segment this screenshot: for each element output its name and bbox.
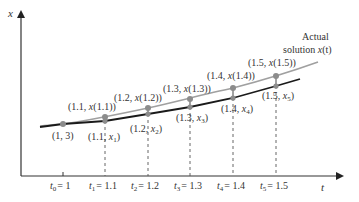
tick-label-t0: t0= 1 <box>50 180 70 193</box>
actual-point-2 <box>145 105 151 111</box>
svg-text:Actual: Actual <box>302 31 329 42</box>
euler-point-3 <box>187 104 192 109</box>
euler-point-1 <box>102 118 107 123</box>
actual-point-labels: (1.1, x(1.1)) (1.2, x(1.2)) (1.3, x(1.3)… <box>68 57 296 113</box>
euler-label-5: (1.5, x5) <box>262 90 294 103</box>
actual-label-5: (1.5, x(1.5)) <box>248 57 296 69</box>
svg-text:solution x(t): solution x(t) <box>283 44 332 56</box>
tick-label-t4: t4= 1.4 <box>217 180 245 193</box>
x-axis-label: t <box>321 181 325 193</box>
euler-point-4 <box>230 95 235 100</box>
actual-solution-label: Actual solution x(t) <box>283 31 332 56</box>
actual-label-3: (1.3, x(1.3)) <box>163 83 211 95</box>
initial-point <box>60 121 66 127</box>
euler-method-diagram: x t Actual solution x( <box>0 0 359 202</box>
euler-label-1: (1.1, x1) <box>88 131 120 144</box>
euler-point-5 <box>273 83 278 88</box>
euler-point-2 <box>145 111 150 116</box>
actual-label-2: (1.2, x(1.2)) <box>114 92 162 104</box>
actual-label-4: (1.4, x(1.4)) <box>207 70 255 82</box>
euler-label-4: (1.4, x4) <box>221 103 253 116</box>
tick-labels: t0= 1 t1= 1.1 t2= 1.2 t3= 1.3 t4= 1.4 t5… <box>50 180 288 193</box>
actual-label-1: (1.1, x(1.1)) <box>68 101 116 113</box>
initial-point-label: (1, 3) <box>52 130 74 142</box>
tick-label-t1: t1= 1.1 <box>89 180 117 193</box>
tick-label-t5: t5= 1.5 <box>260 180 288 193</box>
tick-label-t3: t3= 1.3 <box>174 180 202 193</box>
tick-label-t2: t2= 1.2 <box>131 180 159 193</box>
y-axis-label: x <box>7 7 13 19</box>
euler-label-2: (1.2, x2) <box>130 123 162 136</box>
actual-point-5 <box>273 73 279 79</box>
actual-point-4 <box>230 85 236 91</box>
actual-point-3 <box>187 96 193 102</box>
euler-label-3: (1.3, x3) <box>176 112 208 125</box>
